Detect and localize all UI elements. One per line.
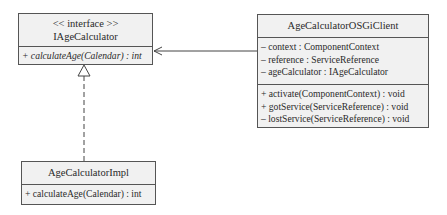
operations-section: + activate(ComponentContext) : void + go… — [258, 84, 428, 126]
class-agecalculatorimpl[interactable]: AgeCalculatorImpl + calculateAge(Calenda… — [21, 161, 156, 205]
operations-section: + calculateAge(Calendar) : int — [22, 184, 155, 201]
attribute: – ageCalculator : IAgeCalculator — [258, 66, 428, 79]
class-header: AgeCalculatorOSGiClient — [258, 15, 428, 37]
class-name: IAgeCalculator — [19, 30, 152, 43]
operations-section: + calculateAge(Calendar) : int — [19, 46, 152, 63]
class-name: AgeCalculatorOSGiClient — [258, 19, 428, 32]
attribute: – context : ComponentContext — [258, 41, 428, 54]
class-agecalculatorosgiclient[interactable]: AgeCalculatorOSGiClient – context : Comp… — [257, 14, 429, 128]
attribute: – reference : ServiceReference — [258, 54, 428, 67]
stereotype-label: << interface >> — [19, 17, 152, 30]
class-header: AgeCalculatorImpl — [22, 162, 155, 184]
operation: + activate(ComponentContext) : void — [258, 88, 428, 101]
attributes-section: – context : ComponentContext – reference… — [258, 37, 428, 84]
operation: + calculateAge(Calendar) : int — [22, 188, 155, 201]
operation: – lostService(ServiceReference) : void — [258, 113, 428, 126]
class-header: << interface >> IAgeCalculator — [19, 14, 152, 46]
class-name: AgeCalculatorImpl — [22, 166, 155, 179]
operation: + gotService(ServiceReference) : void — [258, 101, 428, 114]
operation: + calculateAge(Calendar) : int — [19, 50, 152, 63]
hollow-triangle-icon — [78, 65, 90, 76]
class-iagecalculator[interactable]: << interface >> IAgeCalculator + calcula… — [18, 13, 153, 65]
